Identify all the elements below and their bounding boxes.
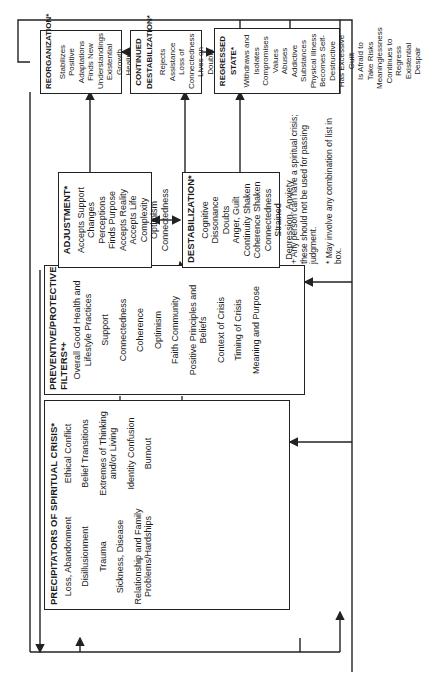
destabilization-title: DESTABILIZATION* — [186, 177, 197, 263]
continued-destabilization-item: Lives on Doubts — [196, 35, 215, 89]
regressed-state-item: Existential Despair — [404, 33, 423, 89]
precipitator-item: Loss, Abandonment — [63, 508, 74, 605]
precipitator-item: Belief Transitions — [80, 405, 91, 502]
destabilization-item: Doubts — [221, 177, 232, 263]
footnote-plus: + Any person can have a spiritual crisis… — [290, 104, 319, 264]
precipitators-list: Loss, Abandonment Disillusionment Trauma… — [63, 405, 161, 605]
footnotes: + Any person can have a spiritual crisis… — [290, 104, 350, 264]
precipitator-item: Disillusionment — [80, 508, 91, 605]
regressed-state-item: Becomes Self-Destructive — [318, 33, 337, 89]
regressed-state-item: Physical Illness — [309, 33, 319, 89]
reorganization-item: Finds New Understandings — [86, 35, 105, 89]
destabilization-item: Anger, Guilt — [231, 177, 242, 263]
filter-item: Support — [100, 270, 111, 390]
adjustment-box: ADJUSTMENT* Accepts Support Changes Perc… — [58, 172, 152, 268]
regressed-state-box: REGRESSED STATE* Withdraws and Isolates … — [214, 28, 340, 94]
regressed-state-item: Is Afraid to Take Risks — [356, 33, 375, 89]
filter-item: Optimism — [153, 270, 164, 390]
precipitators-title: PRECIPITATORS OF SPIRITUAL CRISIS* — [49, 405, 60, 605]
reorganization-title: REORGANIZATION* — [44, 35, 55, 89]
preventive-filters-box: PREVENTIVE/PROTECTIVE FILTERS*+ Overall … — [44, 265, 305, 395]
precipitators-box: PRECIPITATORS OF SPIRITUAL CRISIS* Loss,… — [44, 400, 290, 610]
destabilization-item: Cognitive Dissonance — [200, 177, 221, 263]
adjustment-item: Finds Purpose — [107, 177, 118, 263]
footnote-asterisk: * May involve any combination of list in… — [325, 104, 344, 264]
filter-item: Faith Community — [170, 270, 181, 390]
regressed-state-item: Compromises Values — [261, 33, 280, 89]
destabilization-box: DESTABILIZATION* Cognitive Dissonance Do… — [182, 172, 280, 268]
adjustment-item: Accepts Life Complexity — [128, 177, 149, 263]
filter-item: Connectedness — [118, 270, 129, 390]
precipitator-item: Trauma — [98, 508, 109, 605]
precipitator-item: Burnout — [143, 405, 154, 502]
destabilization-item: Connectedness Strained — [263, 177, 284, 263]
adjustment-item: Accepts Reality — [118, 177, 129, 263]
regressed-state-title: REGRESSED STATE* — [218, 33, 239, 89]
regressed-state-item: Has Excessive Guilt — [337, 33, 356, 89]
regressed-state-item: Abuses Addictive Substances — [280, 33, 309, 89]
adjustment-title: ADJUSTMENT* — [62, 177, 73, 263]
precipitator-item: Extremes of Thinking and/or Living — [98, 405, 119, 502]
filter-item: Timing of Crisis — [233, 270, 244, 390]
regressed-state-item: Meaninglessness — [375, 33, 385, 89]
destabilization-item: Continuity Shaken — [242, 177, 253, 263]
filter-item: Context of Crisis — [216, 270, 227, 390]
filter-item: Overall Good Health and Lifestyle Practi… — [72, 270, 93, 390]
reorganization-item: Existential Growth — [105, 35, 124, 89]
adjustment-item: Accepts Support — [76, 177, 87, 263]
regressed-state-item: Continues to Regress — [385, 33, 404, 89]
precipitator-item: Relationship and Family Problems/Hardshi… — [133, 508, 154, 605]
adjustment-item: Optimism — [149, 177, 160, 263]
filter-item: Positive Principles and Beliefs — [188, 270, 209, 390]
adjustment-item: Changes Perceptions — [86, 177, 107, 263]
continued-destabilization-item: Loss of Connectedness — [177, 35, 196, 89]
reorganization-item: Stabilizes — [58, 35, 68, 89]
reorganization-item: Positive Adaptations — [67, 35, 86, 89]
filter-item: Meaning and Purpose — [251, 270, 262, 390]
precipitator-item: Identity Confusion — [126, 405, 137, 502]
regressed-state-item: Withdraws and Isolates — [242, 33, 261, 89]
precipitator-item: Sickness, Disease — [115, 508, 126, 605]
filter-item: Coherence — [135, 270, 146, 390]
continued-destabilization-title: CONTINUED DESTABILIZATION* — [134, 35, 155, 89]
continued-destabilization-item: Rejects Assistance — [158, 35, 177, 89]
adjustment-item: Connectedness — [160, 177, 171, 263]
continued-destabilization-box: CONTINUED DESTABILIZATION* Rejects Assis… — [130, 30, 202, 94]
precipitator-item: Ethical Conflict — [63, 405, 74, 502]
filters-title: PREVENTIVE/PROTECTIVE FILTERS*+ — [48, 270, 69, 390]
destabilization-item: Coherence Shaken — [252, 177, 263, 263]
reorganization-box: REORGANIZATION* Stabilizes Positive Adap… — [40, 30, 122, 94]
